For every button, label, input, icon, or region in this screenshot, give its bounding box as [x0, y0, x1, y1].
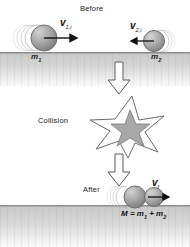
mass-label-1: m1: [31, 52, 41, 63]
collision-star-icon: [88, 94, 168, 160]
after-caption: After: [83, 185, 100, 194]
mass-label-2: m2: [151, 52, 161, 63]
merged-balls-group: [110, 182, 182, 208]
velocity-label-final: vf: [152, 177, 159, 190]
velocity-label-2: v2,i: [130, 20, 141, 33]
mass-equation: M = m1 + m2: [121, 209, 166, 220]
merged-ball-1: [124, 186, 146, 208]
collision-diagram: Before v1,i m1: [0, 0, 190, 247]
before-caption: Before: [80, 4, 103, 13]
collision-caption: Collision: [38, 116, 68, 125]
ground-surface-before: [0, 52, 190, 86]
down-arrow-top-icon: [104, 62, 134, 95]
velocity-label-1: v1,i: [60, 17, 71, 30]
